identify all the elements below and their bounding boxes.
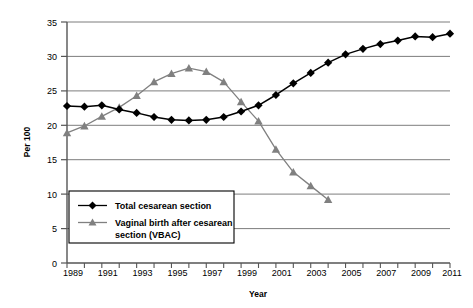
x-tick-label-2003: 2003 bbox=[307, 268, 327, 278]
x-tick-label-1993: 1993 bbox=[133, 268, 153, 278]
line-chart: 35 30 25 20 15 10 5 0 Per 100 1989 1991 … bbox=[0, 0, 473, 308]
y-tick-label-0: 0 bbox=[52, 259, 57, 269]
y-tick-labels: 35 30 25 20 15 10 5 0 bbox=[47, 18, 57, 269]
x-axis-title: Year bbox=[249, 289, 268, 299]
x-tick-label-2009: 2009 bbox=[411, 268, 431, 278]
y-axis-title: Per 100 bbox=[22, 127, 32, 158]
x-tick-label-2011: 2011 bbox=[442, 268, 461, 278]
x-tick-label-1997: 1997 bbox=[202, 268, 222, 278]
y-tick-label-15: 15 bbox=[47, 155, 57, 165]
x-tick-label-1995: 1995 bbox=[167, 268, 187, 278]
y-tick-label-10: 10 bbox=[47, 190, 57, 200]
x-tick-label-1989: 1989 bbox=[63, 268, 83, 278]
x-tick-label-1991: 1991 bbox=[98, 268, 118, 278]
legend-label-vbac-line2: section (VBAC) bbox=[115, 230, 181, 240]
x-tick-label-2005: 2005 bbox=[341, 268, 361, 278]
y-tick-label-5: 5 bbox=[52, 224, 57, 234]
y-tick-label-30: 30 bbox=[47, 52, 57, 62]
x-tick-label-1999: 1999 bbox=[237, 268, 257, 278]
x-tick-label-2007: 2007 bbox=[376, 268, 396, 278]
y-tick-marks bbox=[61, 22, 67, 263]
y-tick-label-25: 25 bbox=[47, 86, 57, 96]
y-tick-label-35: 35 bbox=[47, 18, 57, 28]
y-tick-label-20: 20 bbox=[47, 121, 57, 131]
x-tick-labels: 1989 1991 1993 1995 1997 1999 2001 2003 … bbox=[63, 268, 462, 278]
chart-container: 35 30 25 20 15 10 5 0 Per 100 1989 1991 … bbox=[0, 0, 473, 308]
x-tick-label-2001: 2001 bbox=[272, 268, 292, 278]
legend-label-total-cesarean: Total cesarean section bbox=[115, 201, 211, 211]
legend-label-vbac-line1: Vaginal birth after cesarean bbox=[115, 218, 233, 228]
legend: Total cesarean section Vaginal birth aft… bbox=[69, 191, 234, 243]
